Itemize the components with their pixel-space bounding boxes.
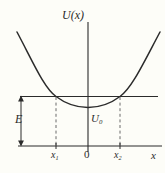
well-depth-label: U0 [91,113,102,124]
y-axis-label: U(x) [62,9,84,21]
origin-label: 0 [84,149,90,160]
well-depth-label-subscript: 0 [99,118,102,125]
turning-point-left-label-subscript: 1 [55,154,58,161]
energy-label: E [15,113,22,125]
well-depth-label-base: U [91,112,99,124]
turning-point-right-label-subscript: 2 [118,154,121,161]
potential-energy-diagram: U(x) E U0 x1 0 x2 x [0,0,165,173]
diagram-canvas [0,0,165,173]
turning-point-left-label: x1 [51,150,59,160]
x-axis-label: x [151,150,156,161]
turning-point-right-label: x2 [114,150,122,160]
